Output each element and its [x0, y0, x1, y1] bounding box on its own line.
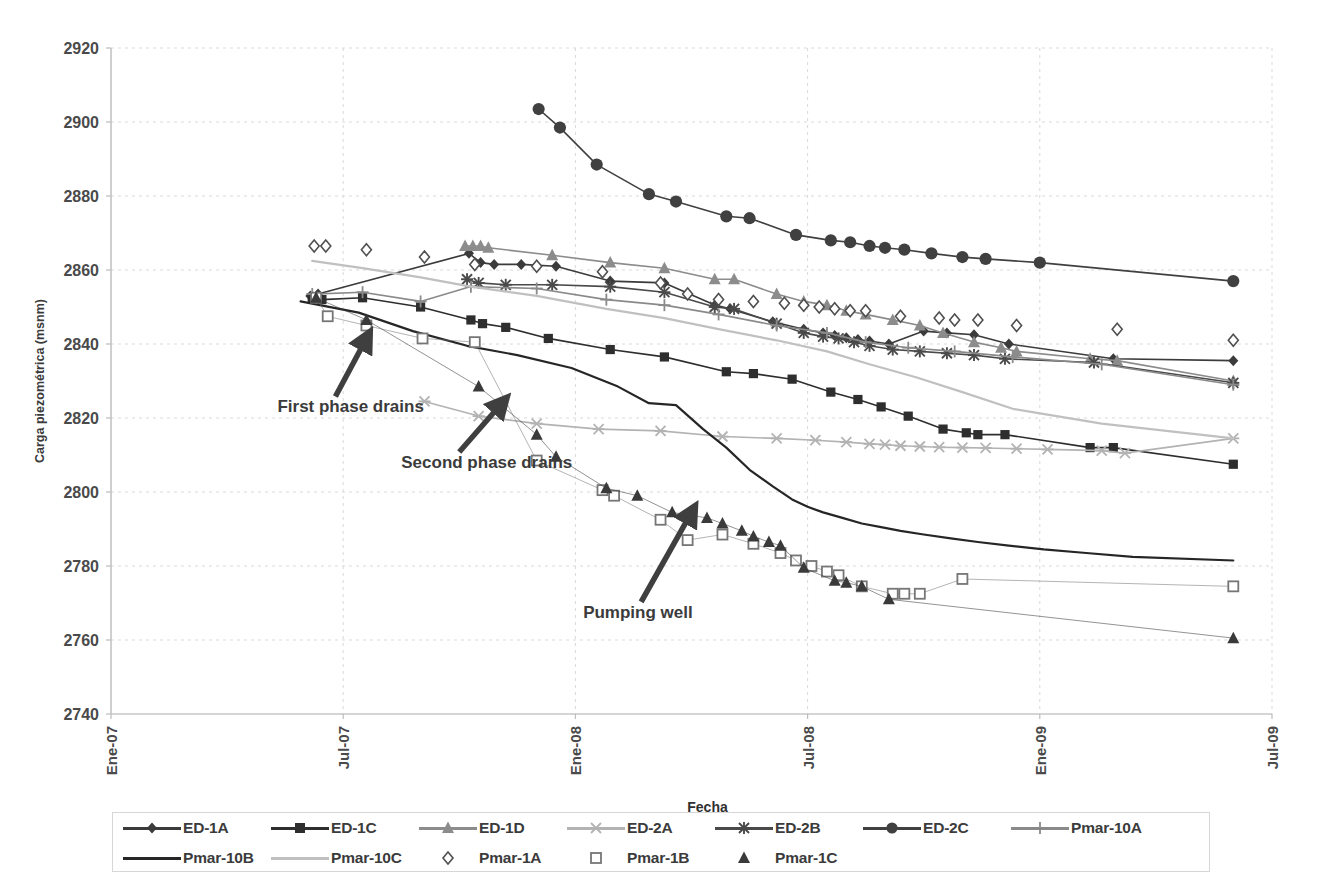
marker-star4 — [956, 443, 968, 453]
marker-diamond-open — [830, 303, 840, 315]
legend-key-pmar-10a — [1009, 819, 1071, 837]
legend-label: ED-2C — [923, 819, 969, 837]
marker-triangle — [763, 535, 775, 547]
marker-square — [660, 352, 669, 361]
marker-circle — [863, 240, 875, 252]
marker-diamond — [516, 259, 526, 270]
legend-item-pmar-1b[interactable]: Pmar-1B — [565, 843, 713, 873]
legend-label: ED-2A — [627, 819, 673, 837]
chart-page: 2740276027802800282028402860288029002920… — [0, 0, 1324, 896]
legend-label: ED-1C — [331, 819, 377, 837]
series-line — [310, 253, 1233, 360]
marker-circle — [643, 188, 655, 200]
y-axis-tick-label: 2800 — [63, 484, 99, 501]
marker-triangle — [360, 313, 372, 325]
marker-circle — [980, 253, 992, 265]
legend-key-ed-1a — [121, 819, 183, 837]
legend-item-ed-1a[interactable]: ED-1A — [121, 813, 269, 843]
x-axis-tick-label: Jul-08 — [800, 726, 817, 769]
legend-row-2: Pmar-10BPmar-10CPmar-1APmar-1BPmar-1C — [113, 843, 1209, 873]
marker-star6 — [738, 822, 750, 834]
marker-circle — [956, 251, 968, 263]
legend-label: Pmar-1A — [479, 849, 541, 867]
annotation-1: First phase drains — [277, 338, 423, 416]
legend-label: Pmar-1C — [775, 849, 837, 867]
legend-key-pmar-10c — [269, 849, 331, 867]
marker-square — [722, 367, 731, 376]
legend-label: Pmar-10B — [183, 849, 254, 867]
marker-square-open — [957, 574, 967, 584]
marker-plus — [600, 294, 612, 306]
legend-item-ed-2c[interactable]: ED-2C — [861, 813, 1009, 843]
marker-square — [962, 428, 971, 437]
legend-item-pmar-10a[interactable]: Pmar-10A — [1009, 813, 1159, 843]
legend-key-ed-1c — [269, 819, 331, 837]
marker-star4 — [864, 439, 876, 449]
legend-marker-circle — [884, 820, 900, 836]
marker-diamond-open — [1112, 323, 1122, 335]
marker-star4 — [1042, 444, 1054, 454]
series-line — [312, 261, 1233, 439]
legend-item-ed-1c[interactable]: ED-1C — [269, 813, 417, 843]
marker-circle — [825, 234, 837, 246]
x-axis-tick-label: Ene-07 — [103, 726, 120, 775]
marker-diamond-open — [443, 852, 453, 864]
series-pmar-10b — [301, 301, 1234, 560]
marker-diamond-open — [779, 297, 789, 309]
legend-marker-square-open — [588, 850, 604, 866]
legend-key-pmar-10b — [121, 849, 183, 867]
marker-star4 — [914, 441, 926, 451]
legend-item-ed-2a[interactable]: ED-2A — [565, 813, 713, 843]
legend-marker-square — [292, 820, 308, 836]
marker-plus — [658, 299, 670, 311]
series-pmar-10c — [312, 261, 1233, 439]
legend-label: ED-1D — [479, 819, 525, 837]
marker-triangle — [775, 539, 787, 551]
marker-square — [904, 412, 913, 421]
marker-star4 — [894, 441, 906, 451]
marker-diamond-open — [419, 251, 429, 263]
legend-label: Pmar-10A — [1071, 819, 1142, 837]
marker-square — [295, 823, 305, 833]
annotation-label: Pumping well — [583, 603, 693, 622]
marker-square — [466, 315, 475, 324]
legend-item-ed-1d[interactable]: ED-1D — [417, 813, 565, 843]
marker-square — [1229, 460, 1238, 469]
legend-item-pmar-10c[interactable]: Pmar-10C — [269, 843, 417, 873]
marker-square — [938, 425, 947, 434]
marker-star4 — [655, 426, 667, 436]
marker-square-open — [1228, 581, 1238, 591]
legend-marker-plus — [1032, 820, 1048, 836]
marker-circle — [844, 236, 856, 248]
legend-item-ed-2b[interactable]: ED-2B — [713, 813, 861, 843]
y-axis-tick-label: 2760 — [63, 632, 99, 649]
marker-plus — [1034, 822, 1046, 834]
marker-star6 — [914, 345, 926, 357]
legend-line-swatch — [271, 857, 329, 860]
marker-square-open — [717, 530, 727, 540]
y-axis-tick-label: 2740 — [63, 706, 99, 723]
marker-square — [877, 402, 886, 411]
marker-star4 — [771, 433, 783, 443]
legend-item-pmar-1c[interactable]: Pmar-1C — [713, 843, 863, 873]
marker-circle — [554, 121, 566, 133]
legend-key-pmar-1a — [417, 849, 479, 867]
annotation-arrow — [459, 403, 502, 452]
marker-square-open — [822, 567, 832, 577]
legend-row-1: ED-1AED-1CED-1DED-2AED-2BED-2CPmar-10A — [113, 813, 1209, 843]
marker-star6 — [728, 303, 740, 315]
legend-key-ed-2a — [565, 819, 627, 837]
chart-legend: ED-1AED-1CED-1DED-2AED-2BED-2CPmar-10A P… — [112, 812, 1210, 872]
marker-star4 — [473, 411, 485, 421]
x-axis-tick-label: Ene-09 — [1032, 726, 1049, 775]
marker-star4 — [593, 424, 605, 434]
marker-circle — [790, 229, 802, 241]
x-axis-tick-label: Jul-07 — [335, 726, 352, 769]
y-axis-tick-label: 2900 — [63, 114, 99, 131]
marker-diamond — [1004, 339, 1014, 350]
legend-item-pmar-1a[interactable]: Pmar-1A — [417, 843, 565, 873]
legend-label: Pmar-1B — [627, 849, 689, 867]
legend-item-pmar-10b[interactable]: Pmar-10B — [121, 843, 269, 873]
marker-triangle — [531, 428, 543, 440]
marker-diamond — [489, 259, 499, 270]
